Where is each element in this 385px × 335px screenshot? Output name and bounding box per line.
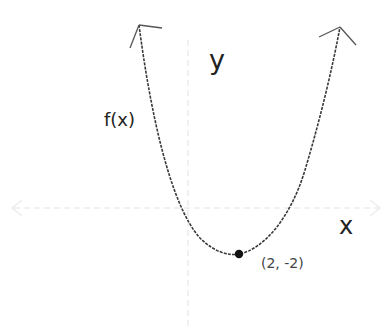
y-axis-label: y <box>209 46 225 73</box>
parabola-diagram <box>0 0 385 335</box>
function-label: f(x) <box>104 111 135 129</box>
x-axis <box>12 200 380 216</box>
curve-left-arrow-icon <box>130 25 162 48</box>
parabola-curve <box>139 25 340 255</box>
vertex-label: (2, -2) <box>261 256 304 270</box>
vertex-point-icon <box>235 250 243 258</box>
x-axis-label: x <box>339 214 353 238</box>
